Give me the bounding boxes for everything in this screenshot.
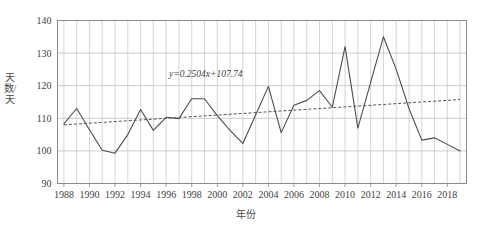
trendline (64, 100, 460, 125)
x-tick-label: 1996 (156, 189, 176, 200)
x-tick-label: 1992 (105, 189, 125, 200)
x-tick-label: 2002 (233, 189, 253, 200)
y-tick-label: 140 (37, 15, 52, 26)
series-line-tianshu (64, 37, 460, 153)
y-axis-ticks: 90100110120130140 (37, 15, 52, 189)
y-tick-label: 100 (37, 145, 52, 156)
x-tick-label: 1988 (54, 189, 74, 200)
x-tick-label: 2004 (258, 189, 278, 200)
x-tick-label: 2012 (361, 189, 381, 200)
y-tick-label: 110 (37, 113, 52, 124)
x-tick-label: 2018 (437, 189, 457, 200)
x-tick-label: 1994 (131, 189, 151, 200)
x-axis-ticks: 1988199019921994199619982000200220042006… (54, 184, 457, 201)
x-tick-label: 2010 (335, 189, 355, 200)
y-tick-label: 90 (42, 178, 52, 189)
x-tick-label: 1990 (79, 189, 99, 200)
x-tick-label: 1998 (182, 189, 202, 200)
x-tick-label: 2000 (207, 189, 227, 200)
x-tick-label: 2014 (386, 189, 406, 200)
x-tick-label: 2008 (310, 189, 330, 200)
trendline-equation-label: y=0.2504x+107.74 (168, 69, 243, 79)
y-tick-label: 120 (37, 80, 52, 91)
x-tick-label: 2016 (412, 189, 432, 200)
chart-figure: 天数/天 年份 90100110120130140 19881990199219… (0, 0, 491, 228)
line-chart: 90100110120130140 1988199019921994199619… (0, 0, 491, 228)
y-tick-label: 130 (37, 48, 52, 59)
x-tick-label: 2006 (284, 189, 304, 200)
